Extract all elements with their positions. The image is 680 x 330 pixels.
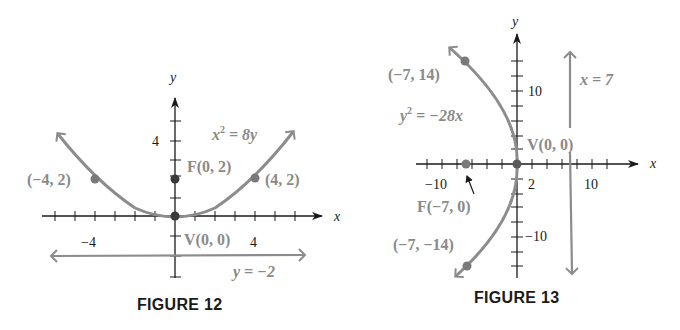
fig13-point-top bbox=[461, 57, 470, 66]
fig13-tick-label-10y: 10 bbox=[528, 84, 542, 99]
fig13-tick-label-neg10y: −10 bbox=[525, 229, 547, 244]
fig13-parabola-curve bbox=[450, 48, 517, 276]
fig12-tick-label-4x: 4 bbox=[250, 235, 257, 250]
fig13-y-axis-label: y bbox=[510, 14, 519, 29]
figures-canvas: y x 4 −4 4 x2 = 8y F(0, 2) (−4, 2) (4, 2… bbox=[0, 0, 680, 330]
fig12-vertex-point bbox=[171, 212, 180, 221]
fig12-point-right-label: (4, 2) bbox=[265, 171, 300, 189]
fig13-focus-pointer-arrow bbox=[467, 176, 474, 194]
fig13-tick-label-neg10x: −10 bbox=[425, 177, 447, 192]
fig13-focus-label: F(−7, 0) bbox=[417, 198, 471, 216]
fig13-tick-label-2x: 2 bbox=[528, 177, 535, 192]
fig13-equation-label: y2 = −28x bbox=[398, 105, 463, 125]
fig12-y-axis-label: y bbox=[168, 70, 177, 85]
fig13-point-bottom bbox=[463, 262, 472, 271]
figure-13: y x 10 −10 −10 2 10 (−7, 14) y2 = −28x x… bbox=[388, 14, 657, 278]
fig13-vertex-point bbox=[513, 160, 522, 169]
fig12-tick-label-neg4: −4 bbox=[81, 235, 96, 250]
fig13-directrix-label: x = 7 bbox=[579, 71, 614, 88]
fig12-point-right bbox=[251, 174, 260, 183]
fig12-point-left bbox=[91, 175, 100, 184]
fig12-focus-point bbox=[171, 175, 180, 184]
fig12-x-axis-label: x bbox=[333, 209, 341, 224]
figure-12: y x 4 −4 4 x2 = 8y F(0, 2) (−4, 2) (4, 2… bbox=[27, 70, 341, 281]
fig12-equation-label: x2 = 8y bbox=[211, 124, 258, 144]
fig13-x-axis-label: x bbox=[649, 156, 657, 171]
fig12-vertex-label: V(0, 0) bbox=[184, 231, 230, 249]
fig13-point-top-label: (−7, 14) bbox=[388, 66, 440, 84]
fig13-point-bottom-label: (−7, −14) bbox=[393, 236, 454, 254]
fig12-focus-label: F(0, 2) bbox=[187, 158, 231, 176]
fig12-tick-label-4y: 4 bbox=[152, 134, 159, 149]
fig13-vertex-label: V(0, 0) bbox=[527, 136, 573, 154]
figure-13-caption: FIGURE 13 bbox=[474, 289, 559, 307]
fig13-tick-label-10x: 10 bbox=[584, 177, 598, 192]
figure-12-caption: FIGURE 12 bbox=[137, 296, 222, 314]
fig12-directrix-line bbox=[52, 255, 304, 256]
fig13-directrix-line-lower bbox=[570, 152, 572, 273]
fig13-focus-point bbox=[462, 160, 471, 169]
fig12-point-left-label: (−4, 2) bbox=[27, 171, 71, 189]
fig12-directrix-label: y = −2 bbox=[231, 263, 275, 281]
